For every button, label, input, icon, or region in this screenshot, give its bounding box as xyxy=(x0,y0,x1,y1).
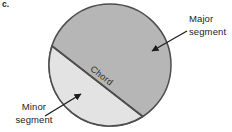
figure-canvas: c. Chord Major segment Minor segment xyxy=(0,0,232,132)
minor-segment-label: Minor segment xyxy=(4,100,64,126)
major-segment-label: Major segment xyxy=(189,12,226,38)
minor-segment-label-line2: segment xyxy=(4,113,64,126)
major-segment-label-line1: Major xyxy=(189,12,226,25)
major-segment-label-line2: segment xyxy=(189,25,226,38)
minor-segment-label-line1: Minor xyxy=(4,100,64,113)
